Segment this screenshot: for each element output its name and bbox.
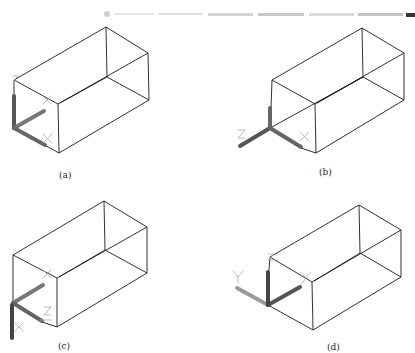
ucs-icon-a: [13, 76, 52, 145]
panel-c: [12, 201, 147, 338]
panel-b: [238, 28, 404, 153]
x-axis-glyph-icon: [15, 323, 23, 331]
caption-b: (b): [319, 167, 332, 177]
caption-c: (c): [58, 341, 70, 351]
caption-a: (a): [59, 170, 71, 180]
x-axis-glyph-icon: [300, 132, 309, 141]
z-axis-glyph-icon: [40, 307, 52, 320]
wireframe-box-a: [14, 27, 149, 153]
ucs-icon-d: [233, 254, 311, 305]
panel-d: [233, 205, 401, 330]
x-axis-glyph-icon: [43, 134, 52, 143]
wireframe-box-d: [268, 205, 401, 330]
ucs-icon-b: [238, 108, 309, 147]
y-axis-glyph-icon: [233, 271, 243, 283]
wireframe-box-c: [13, 201, 147, 327]
caption-d: (d): [327, 342, 340, 352]
panel-a: [13, 27, 149, 153]
ucs-icon-c: [12, 270, 52, 338]
z-axis-glyph-icon: [238, 130, 245, 138]
wireframe-box-b: [270, 28, 404, 153]
y-axis-glyph-icon: [301, 272, 311, 285]
